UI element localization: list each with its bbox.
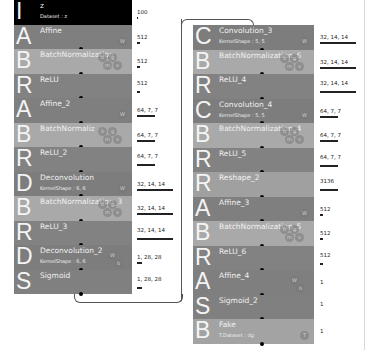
layer-affine[interactable]: AAffineW [14, 25, 132, 50]
output-shape-label: 512 [137, 58, 148, 64]
layer-fake[interactable]: BFakeT.Dataset : dgT [193, 319, 314, 344]
layer-property: Dataset : z [40, 13, 67, 19]
output-size-bar [320, 91, 356, 93]
output-size-bar [137, 66, 140, 68]
layer-type-icon: S [195, 295, 210, 320]
layer-name: ReLU_2 [40, 148, 67, 157]
output-shape-label: 32, 14, 14 [137, 181, 165, 187]
layer-relu-2[interactable]: RReLU_2 [14, 147, 132, 172]
output-shape-label: 1 [320, 279, 324, 285]
output-shape-label: 64, 7, 7 [137, 107, 158, 113]
output-shape-label: 64, 7, 7 [320, 108, 341, 114]
layer-name: BatchNormaliz [40, 124, 95, 133]
layer-name: ReLU_6 [219, 247, 246, 256]
output-size-bar [137, 91, 140, 93]
output-shape-label: 1 [320, 328, 324, 334]
layer-type-icon: C [195, 99, 212, 124]
parameter-w-icon: W [300, 209, 309, 218]
layer-relu[interactable]: RReLU [14, 74, 132, 99]
layer-deconvolution[interactable]: DDeconvolutionKernelShape : 6, 6W [14, 172, 132, 197]
layer-z[interactable]: IzDataset : z [14, 0, 132, 25]
layer-affine-3[interactable]: AAffine_3W [193, 197, 314, 222]
layer-relu-5[interactable]: RReLU_5 [193, 148, 314, 173]
layer-sigmoid[interactable]: SSigmoid [14, 270, 132, 295]
layer-name: Affine_2 [40, 99, 70, 108]
layer-type-icon: B [195, 50, 210, 75]
output-shape-label: 512 [320, 252, 331, 258]
layer-property: KernelShape : 5, 5 [219, 38, 265, 44]
output-shape-label: 3136 [320, 178, 334, 184]
layer-relu-4[interactable]: RReLU_4 [193, 74, 314, 99]
layer-type-icon: B [195, 221, 210, 246]
layer-name: Reshape_2 [219, 173, 260, 182]
layer-name: Sigmoid_2 [219, 296, 258, 305]
output-shape-label: 1, 28, 28 [137, 254, 162, 260]
layer-relu-6[interactable]: RReLU_6 [193, 246, 314, 271]
layer-name: Affine [40, 26, 62, 35]
parameter-w-icon: W [300, 37, 309, 46]
layer-name: Convolution_4 [219, 100, 272, 109]
output-shape-label: 1 [320, 301, 324, 307]
layer-type-icon: B [16, 196, 31, 221]
parameter-m-icon: m [285, 233, 294, 242]
connector-line-bottom [74, 294, 183, 303]
layer-type-icon: B [16, 123, 31, 148]
layer-type-icon: A [195, 270, 210, 295]
output-shape-label: 64, 7, 7 [320, 154, 341, 160]
output-shape-label: 32, 14, 14 [137, 227, 165, 233]
output-size-bar [320, 67, 356, 69]
layer-batchnormaliz[interactable]: BBatchNormalizbgmv [14, 123, 132, 148]
layer-type-icon: B [195, 319, 210, 344]
parameter-v-icon: v [113, 61, 122, 70]
layer-name: Deconvolution_2 [40, 246, 103, 255]
output-shape-label: 64, 7, 7 [320, 132, 341, 138]
output-size-bar [320, 189, 338, 191]
layer-sigmoid-2[interactable]: SSigmoid_2 [193, 295, 314, 320]
layer-affine-2[interactable]: AAffine_2W [14, 98, 132, 123]
layer-type-icon: I [16, 0, 22, 25]
output-shape-label: 64, 7, 7 [137, 153, 158, 159]
layer-type-icon: B [195, 123, 210, 148]
layer-batchnormalization-5[interactable]: BBatchNormalization_5bgmv [193, 221, 314, 246]
parameter-m-icon: m [285, 135, 294, 144]
layer-batchnormalization-4[interactable]: BBatchNormalization_4bgmv [193, 123, 314, 148]
layer-property: KernelShape : 6, 6 [40, 185, 86, 191]
layer-affine-4[interactable]: AAffine_4Wb [193, 270, 314, 295]
layer-property: KernelShape : 6, 6 [40, 258, 86, 264]
parameter-v-icon: v [295, 135, 304, 144]
connector-line-side [181, 19, 182, 301]
layer-type-icon: R [16, 147, 33, 172]
layer-reshape-2[interactable]: RReshape_2 [193, 172, 314, 197]
parameter-w-icon: W [118, 184, 127, 193]
parameter-b-icon: b [114, 259, 123, 268]
output-size-bar [137, 213, 173, 215]
connection-dot [79, 292, 83, 296]
parameter-w-icon: W [118, 37, 127, 46]
parameter-v-icon: v [113, 135, 122, 144]
output-shape-label: 32, 14, 14 [320, 59, 348, 65]
output-shape-label: 512 [137, 80, 148, 86]
layer-convolution-3[interactable]: CConvolution_3KernelShape : 5, 5W [193, 25, 314, 50]
layer-name: ReLU [40, 75, 59, 84]
output-shape-label: 1, 28, 28 [137, 276, 162, 282]
parameter-v-icon: v [295, 62, 304, 71]
layer-batchnormalization-3[interactable]: BBatchNormalization_3bgmv [14, 196, 132, 221]
output-shape-label: 32, 14, 14 [137, 205, 165, 211]
layer-name: Deconvolution [40, 173, 94, 182]
layer-batchnormalization[interactable]: BBatchNormalizationbgmv [14, 49, 132, 74]
output-size-bar [320, 42, 356, 44]
layer-batchnormalization-6[interactable]: BBatchNormalization_6bgmv [193, 50, 314, 75]
output-size-bar [137, 42, 140, 44]
output-shape-label: 512 [320, 230, 331, 236]
layer-convolution-4[interactable]: CConvolution_4KernelShape : 5, 5W [193, 99, 314, 124]
output-shape-label: 512 [137, 34, 148, 40]
parameter-t-icon: T [300, 331, 309, 340]
layer-deconvolution-2[interactable]: DDeconvolution_2KernelShape : 6, 6Wb [14, 245, 132, 270]
output-size-bar [137, 164, 155, 166]
layer-name: Sigmoid [40, 271, 70, 280]
output-shape-label: 32, 14, 14 [320, 80, 348, 86]
layer-type-icon: D [16, 172, 33, 197]
layer-type-icon: A [16, 25, 31, 50]
layer-type-icon: R [195, 246, 212, 271]
layer-relu-3[interactable]: RReLU_3 [14, 221, 132, 246]
